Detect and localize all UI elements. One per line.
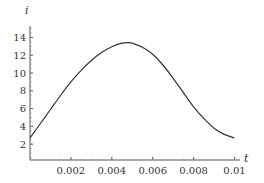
y-tick-label: 6 <box>20 103 26 114</box>
y-tick-label: 10 <box>13 68 26 79</box>
y-tick-label: 8 <box>20 85 26 96</box>
x-axis-label: t <box>244 152 249 165</box>
x-tick-label: 0.002 <box>57 165 86 176</box>
x-tick-label: 0.004 <box>97 165 126 176</box>
x-tick-label: 0.008 <box>179 165 208 176</box>
x-tick-label: 0.01 <box>223 165 245 176</box>
data-series-line <box>30 43 235 138</box>
y-tick-label: 4 <box>20 121 26 132</box>
line-chart: 2468101214 0.0020.0040.0060.0080.01 i t <box>0 0 264 183</box>
y-tick-label: 12 <box>13 50 26 61</box>
y-tick-label: 2 <box>20 139 26 150</box>
x-tick-label: 0.006 <box>138 165 167 176</box>
y-tick-label: 14 <box>13 32 26 43</box>
y-axis-label: i <box>25 4 29 17</box>
